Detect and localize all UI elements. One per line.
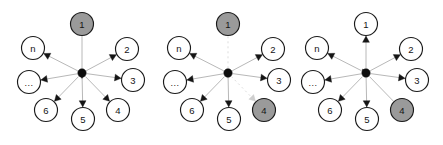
arrowhead-outbound-node-... bbox=[325, 76, 332, 83]
node-2[interactable] bbox=[116, 38, 139, 61]
arrowhead-outbound-node-5 bbox=[79, 101, 86, 107]
diagram-2: 123456...n bbox=[148, 0, 308, 145]
edge-hub-to-node-4 bbox=[369, 76, 393, 101]
arrowhead-outbound-node-1 bbox=[363, 36, 370, 42]
node-4-highlighted[interactable] bbox=[253, 99, 276, 122]
node-2[interactable] bbox=[400, 38, 423, 61]
node-...[interactable] bbox=[164, 71, 187, 94]
arrowhead-outbound-node-5 bbox=[225, 101, 232, 107]
node-1-highlighted[interactable] bbox=[71, 13, 94, 36]
node-n[interactable] bbox=[22, 37, 45, 60]
node-layer: 123456...n bbox=[18, 13, 145, 131]
node-1[interactable] bbox=[355, 13, 378, 36]
node-5[interactable] bbox=[72, 108, 95, 131]
node-layer: 123456...n bbox=[302, 13, 429, 131]
arrow-layer bbox=[41, 53, 121, 107]
hub-node[interactable] bbox=[224, 69, 232, 77]
node-5[interactable] bbox=[218, 108, 241, 131]
star-topology-figure: 123456...n123456...n123456...n bbox=[0, 0, 443, 145]
diagram-1: 123456...n bbox=[2, 0, 162, 145]
node-6[interactable] bbox=[319, 99, 342, 122]
arrowhead-outbound-node-3 bbox=[260, 74, 267, 81]
hub-node[interactable] bbox=[78, 69, 86, 77]
node-2[interactable] bbox=[262, 38, 285, 61]
node-3[interactable] bbox=[406, 69, 429, 92]
arrowhead-outbound-node-... bbox=[41, 76, 48, 83]
node-1-highlighted[interactable] bbox=[217, 13, 240, 36]
node-...[interactable] bbox=[302, 71, 325, 94]
node-4[interactable] bbox=[107, 99, 130, 122]
node-4-highlighted[interactable] bbox=[391, 99, 414, 122]
arrowhead-outbound-node-5 bbox=[363, 101, 370, 107]
arrowhead-outbound-node-3 bbox=[398, 74, 405, 81]
node-n[interactable] bbox=[168, 37, 191, 60]
arrowhead-outbound-node-... bbox=[187, 76, 194, 83]
arrowhead-outbound-node-3 bbox=[114, 74, 121, 81]
node-layer: 123456...n bbox=[164, 13, 291, 131]
node-n[interactable] bbox=[306, 37, 329, 60]
arrow-layer bbox=[187, 53, 267, 107]
hub-node[interactable] bbox=[362, 69, 370, 77]
node-6[interactable] bbox=[181, 99, 204, 122]
node-...[interactable] bbox=[18, 71, 41, 94]
node-3[interactable] bbox=[122, 69, 145, 92]
node-5[interactable] bbox=[356, 108, 379, 131]
node-6[interactable] bbox=[35, 99, 58, 122]
diagram-3: 123456...n bbox=[286, 0, 443, 145]
